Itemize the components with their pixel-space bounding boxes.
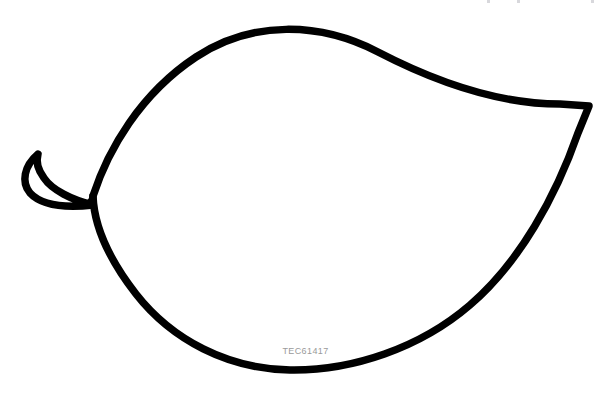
watermark-text: TEC61417 — [0, 346, 611, 356]
top-edge-artifact — [517, 0, 520, 3]
coloring-page-canvas: TEC61417 — [0, 0, 611, 400]
leaf-outline-artwork — [0, 0, 611, 400]
top-edge-artifact — [487, 0, 490, 3]
top-edge-artifact — [591, 0, 594, 3]
